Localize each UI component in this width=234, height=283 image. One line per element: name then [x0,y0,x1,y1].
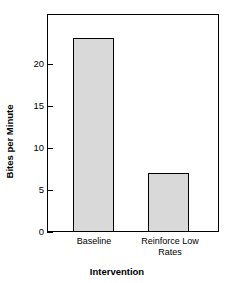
y-axis-title-text: Bites per Minute [5,105,16,179]
x-category-label-reinforce-low-rates-line1: Reinforce Low [134,236,206,247]
y-tick-label-20: 20 [22,59,44,69]
y-tick-mark-20 [47,64,53,65]
y-tick-mark-5 [47,190,53,191]
bar-reinforce-low-rates [148,173,189,232]
x-category-label-reinforce-low-rates: Reinforce Low Rates [134,236,206,258]
y-tick-mark-0 [47,232,53,233]
y-tick-label-10: 10 [22,143,44,153]
x-axis-title: Intervention [0,266,234,277]
x-category-label-reinforce-low-rates-line2: Rates [134,247,206,258]
y-tick-mark-10 [47,148,53,149]
bar-baseline [73,38,114,232]
x-category-label-baseline: Baseline [60,236,128,247]
x-category-label-baseline-line1: Baseline [60,236,128,247]
y-tick-label-5: 5 [22,185,44,195]
y-axis-title: Bites per Minute [0,0,20,283]
y-tick-mark-15 [47,106,53,107]
y-tick-label-0: 0 [22,227,44,237]
y-tick-label-15: 15 [22,101,44,111]
bar-chart-figure: Bites per Minute 0 5 10 15 20 Baseline R… [0,0,234,283]
